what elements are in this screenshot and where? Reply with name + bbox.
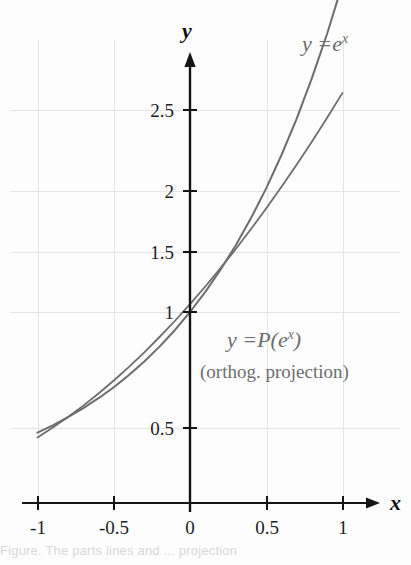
x-tick-label-1: 1 [338,518,348,537]
plot-canvas [0,0,411,565]
annotation-projection-curve: y =P(ex) [227,327,301,353]
y-tick-label-2.5: 2.5 [118,101,174,120]
figure-caption-partial: Figure. The parts lines and ... projecti… [0,543,411,565]
y-tick-label-1.5: 1.5 [118,243,174,262]
figure-container: y x 2.5 2 1.5 1 0.5 -1 -0.5 0 0.5 1 y =e… [0,0,411,565]
annotation-proj-operator: P [257,327,270,352]
y-axis-arrowhead [184,52,195,67]
y-tick-label-1: 1 [118,303,174,322]
annotation-proj-lhs: y = [227,327,257,352]
annotation-exp-exponent: x [342,31,348,46]
annotation-exp-curve: y =ex [302,31,348,57]
x-tick-label--0.5: -0.5 [99,518,129,537]
x-axis-label: x [390,492,401,514]
annotation-exp-lhs: y = [302,31,332,56]
annotation-projection-sublabel: (orthog. projection) [200,362,349,383]
x-tick-label-0: 0 [185,518,195,537]
annotation-proj-base: e [278,327,288,352]
y-tick-label-2: 2 [118,182,174,201]
x-tick-label--1: -1 [30,518,46,537]
annotation-proj-close-paren: ) [294,327,301,352]
x-tick-label-0.5: 0.5 [255,518,279,537]
x-axis-arrowhead [366,498,380,509]
annotation-proj-open-paren: ( [271,327,278,352]
annotation-exp-base: e [332,31,342,56]
y-tick-label-0.5: 0.5 [118,419,174,438]
y-axis-label: y [182,20,192,42]
